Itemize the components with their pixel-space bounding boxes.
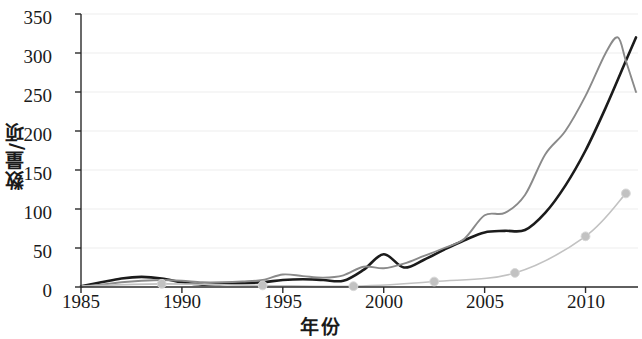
x-tick-label-1995: 1995 [243,292,323,311]
x-tick-label-2010: 2010 [546,292,626,311]
data-point-marker [349,282,358,291]
series-line-series-dark [81,37,636,286]
data-point-marker [621,189,630,198]
series-layer [81,37,636,286]
y-tick-label-100: 100 [0,203,52,222]
y-tick-label-200: 200 [0,125,52,144]
y-tick-label-50: 50 [0,242,52,261]
x-axis-title: 年份 [0,312,642,339]
y-tick-label-350: 350 [0,8,52,27]
x-tick-label-1990: 1990 [142,292,222,311]
series-line-series-gray [81,37,636,286]
x-tick-label-1985: 1985 [41,292,121,311]
x-tick-label-2000: 2000 [344,292,424,311]
y-tick-label-300: 300 [0,47,52,66]
data-point-marker [510,269,519,278]
data-point-marker [258,281,267,290]
y-axis-title: 数量/项 [2,96,28,216]
data-point-markers [157,189,630,291]
series-line-series-light-markers [81,193,626,286]
line-chart-plot [0,0,642,339]
data-point-marker [581,232,590,241]
x-tick-label-2005: 2005 [445,292,525,311]
gridlines [81,14,638,248]
chart-figure: 数量/项 年份 350 300 250 200 150 100 50 0 198… [0,0,642,339]
y-tick-label-250: 250 [0,86,52,105]
y-tick-label-150: 150 [0,164,52,183]
data-point-marker [157,279,166,288]
data-point-marker [430,277,439,286]
axes-layer [75,14,638,293]
